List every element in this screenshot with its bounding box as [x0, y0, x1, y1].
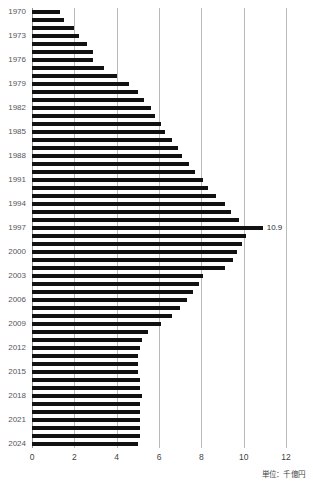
- bar-2024: [32, 442, 138, 447]
- x-tick-0: 0: [30, 452, 35, 462]
- y-tick-1979: 1979: [8, 80, 26, 88]
- y-tick-2006: 2006: [8, 296, 26, 304]
- bar-row: [32, 122, 286, 127]
- plot-area: 10.9: [32, 8, 286, 448]
- bar-row: [32, 410, 286, 415]
- bar-row: [32, 418, 286, 423]
- bar-row: [32, 26, 286, 31]
- bar-1990: [32, 170, 195, 175]
- bar-row: [32, 314, 286, 319]
- bar-1980: [32, 90, 138, 95]
- bar-row: [32, 66, 286, 71]
- bar-row: [32, 58, 286, 63]
- bar-2003: [32, 274, 203, 279]
- x-tick-12: 12: [281, 452, 290, 462]
- bar-row: [32, 34, 286, 39]
- bar-1986: [32, 138, 172, 143]
- bar-1979: [32, 82, 129, 87]
- bars-group: [32, 8, 286, 448]
- bar-row: [32, 306, 286, 311]
- bar-1988: [32, 154, 182, 159]
- bar-1976: [32, 58, 93, 63]
- bar-2023: [32, 434, 140, 439]
- bar-1981: [32, 98, 144, 103]
- bar-1989: [32, 162, 189, 167]
- bar-row: [32, 346, 286, 351]
- bar-1993: [32, 194, 216, 199]
- horizontal-bar-chart: 10.9 19701973197619791982198519881991199…: [0, 0, 313, 487]
- bar-2001: [32, 258, 233, 263]
- bar-2017: [32, 386, 140, 391]
- y-tick-2021: 2021: [8, 416, 26, 424]
- bar-row: [32, 74, 286, 79]
- bar-row: [32, 362, 286, 367]
- bar-2006: [32, 298, 187, 303]
- bar-1999: [32, 242, 242, 247]
- y-tick-1997: 1997: [8, 224, 26, 232]
- x-tick-6: 6: [157, 452, 162, 462]
- bar-2000: [32, 250, 237, 255]
- bar-2020: [32, 410, 140, 415]
- bar-1982: [32, 106, 151, 111]
- bar-row: [32, 162, 286, 167]
- bar-row: [32, 322, 286, 327]
- y-tick-1988: 1988: [8, 152, 26, 160]
- bar-row: [32, 290, 286, 295]
- bar-row: [32, 42, 286, 47]
- y-tick-1991: 1991: [8, 176, 26, 184]
- bar-row: [32, 434, 286, 439]
- bar-row: [32, 186, 286, 191]
- bar-row: [32, 386, 286, 391]
- y-tick-2015: 2015: [8, 368, 26, 376]
- x-tick-10: 10: [239, 452, 248, 462]
- bar-row: [32, 130, 286, 135]
- bar-row: [32, 146, 286, 151]
- bar-2013: [32, 354, 138, 359]
- bar-1998: [32, 234, 246, 239]
- bar-2008: [32, 314, 172, 319]
- bar-row: [32, 106, 286, 111]
- bar-2022: [32, 426, 140, 431]
- bar-2007: [32, 306, 180, 311]
- bar-1972: [32, 26, 74, 31]
- bar-1992: [32, 186, 208, 191]
- gridline-12: [286, 8, 287, 448]
- y-tick-1976: 1976: [8, 56, 26, 64]
- bar-row: [32, 442, 286, 447]
- bar-row: [32, 202, 286, 207]
- bar-row: [32, 98, 286, 103]
- bar-row: [32, 370, 286, 375]
- y-tick-2012: 2012: [8, 344, 26, 352]
- x-tick-8: 8: [199, 452, 204, 462]
- bar-row: [32, 234, 286, 239]
- bar-row: [32, 402, 286, 407]
- bar-row: [32, 426, 286, 431]
- y-tick-2018: 2018: [8, 392, 26, 400]
- y-tick-2000: 2000: [8, 248, 26, 256]
- bar-2002: [32, 266, 225, 271]
- bar-row: [32, 298, 286, 303]
- bar-1973: [32, 34, 79, 39]
- bar-row: [32, 258, 286, 263]
- bar-2015: [32, 370, 138, 375]
- y-axis-labels: 1970197319761979198219851988199119941997…: [0, 8, 30, 448]
- bar-2019: [32, 402, 140, 407]
- bar-1983: [32, 114, 155, 119]
- bar-row: [32, 194, 286, 199]
- bar-2010: [32, 330, 148, 335]
- y-tick-1982: 1982: [8, 104, 26, 112]
- bar-row: [32, 250, 286, 255]
- x-tick-4: 4: [114, 452, 119, 462]
- bar-2012: [32, 346, 140, 351]
- bar-row: [32, 394, 286, 399]
- bar-row: [32, 18, 286, 23]
- bar-row: [32, 82, 286, 87]
- y-tick-2024: 2024: [8, 440, 26, 448]
- bar-1985: [32, 130, 165, 135]
- bar-1996: [32, 218, 239, 223]
- value-label-1997: 10.9: [267, 224, 283, 232]
- bar-2018: [32, 394, 142, 399]
- bar-2005: [32, 290, 193, 295]
- x-tick-2: 2: [72, 452, 77, 462]
- bar-row: [32, 266, 286, 271]
